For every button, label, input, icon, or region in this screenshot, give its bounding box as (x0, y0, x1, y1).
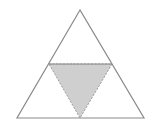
triangle-diagram (0, 0, 151, 134)
shaded-inner-triangle (49, 64, 112, 118)
